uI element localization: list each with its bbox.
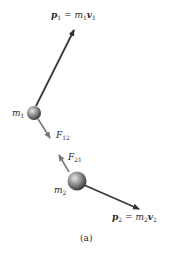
f12-subscript: 12 [62,134,70,141]
p2-momentum-arrow [84,185,139,209]
p1-equals: = [64,10,72,20]
p2-velocity-subscript: 2 [153,216,157,223]
p1-velocity-subscript: 1 [92,14,96,21]
figure-caption: (a) [80,234,92,243]
m1-symbol: m [12,108,21,118]
p1-momentum-arrow [36,30,74,106]
m2-label: m2 [54,186,66,196]
m1-label: m1 [12,109,24,119]
p1-subscript: 1 [57,14,61,21]
p2-equals: = [125,212,133,222]
m2-subscript: 2 [63,189,67,196]
m2-symbol: m [54,185,63,195]
m1-subscript: 1 [21,112,25,119]
f12-label: F12 [56,131,70,141]
mass-1-ball [27,106,41,120]
p2-subscript: 2 [118,216,122,223]
p1-equation-label: p1 = m1v1 [51,11,96,21]
f12-force-arrow [38,119,50,138]
f21-label: F21 [68,153,82,163]
p1-mass-symbol: m [74,10,83,20]
f21-subscript: 21 [74,156,82,163]
mass-2-ball [68,172,87,191]
p2-equation-label: p2 = m2v2 [112,213,157,223]
collision-diagram: p1 = m1v1 m1 F12 F21 m2 p2 = m2v2 (a) [0,0,174,253]
p2-mass-symbol: m [135,212,144,222]
